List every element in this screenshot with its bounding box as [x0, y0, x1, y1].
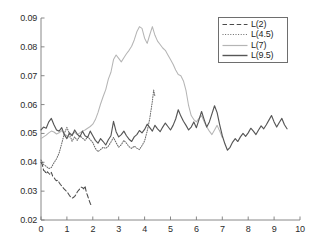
x-tick-6: 6	[194, 224, 199, 234]
x-tick-9: 9	[272, 224, 277, 234]
legend-item-2: L(7)	[219, 40, 287, 51]
y-tick-0.07: 0.07	[0, 71, 37, 81]
chart-figure: 0.020.030.040.050.060.070.080.09 0123456…	[0, 0, 311, 245]
legend-swatch-dotted	[222, 30, 248, 39]
legend-label-0: L(2)	[251, 20, 266, 29]
x-tick-1: 1	[64, 224, 69, 234]
x-tick-7: 7	[220, 224, 225, 234]
legend-label-3: L(9.5)	[251, 51, 273, 60]
x-tick-8: 8	[246, 224, 251, 234]
legend-label-2: L(7)	[251, 41, 266, 50]
x-tick-10: 10	[295, 224, 305, 234]
y-tick-0.02: 0.02	[0, 215, 37, 225]
y-tick-0.06: 0.06	[0, 100, 37, 110]
legend-swatch-light-solid	[222, 41, 248, 50]
legend-item-0: L(2)	[219, 19, 287, 30]
y-tick-0.04: 0.04	[0, 157, 37, 167]
series-line-L7	[41, 27, 222, 139]
legend-swatch-dark-solid	[222, 51, 248, 60]
legend-swatch-dashed	[222, 20, 248, 29]
y-tick-0.05: 0.05	[0, 128, 37, 138]
series-line-L9-5	[41, 106, 287, 150]
legend-item-3: L(9.5)	[219, 51, 287, 62]
x-tick-3: 3	[116, 224, 121, 234]
legend-item-1: L(4.5)	[219, 30, 287, 41]
y-tick-0.09: 0.09	[0, 13, 37, 23]
chart-legend: L(2) L(4.5) L(7) L(9.5)	[218, 17, 288, 63]
y-tick-0.08: 0.08	[0, 42, 37, 52]
y-tick-0.03: 0.03	[0, 186, 37, 196]
x-tick-5: 5	[168, 224, 173, 234]
x-tick-0: 0	[39, 224, 44, 234]
series-line-L4-5	[41, 90, 155, 168]
x-tick-4: 4	[142, 224, 147, 234]
legend-label-1: L(4.5)	[251, 30, 273, 39]
x-tick-2: 2	[90, 224, 95, 234]
